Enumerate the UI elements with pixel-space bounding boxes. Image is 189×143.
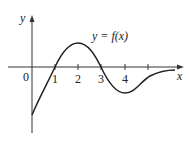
x-tick-label-3: 3 (98, 72, 104, 86)
x-tick-label-1: 1 (52, 72, 58, 86)
function-graph: y x 0 1 2 3 4 y = f(x) (0, 0, 189, 143)
y-axis-arrow-icon (30, 15, 35, 22)
y-axis-label: y (19, 11, 26, 25)
x-tick-label-4: 4 (122, 72, 128, 86)
function-label: y = f(x) (91, 29, 128, 43)
x-axis-label: x (176, 69, 183, 83)
origin-label: 0 (23, 70, 29, 84)
x-tick-label-2: 2 (75, 72, 81, 86)
